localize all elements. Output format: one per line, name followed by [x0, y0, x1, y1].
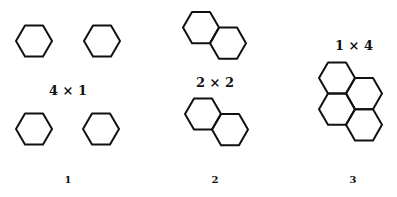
hexagon [212, 114, 248, 145]
group-1-dimension-label: 4 × 1 [49, 83, 87, 98]
hexagon [346, 109, 382, 140]
group-2-index-label: 2 [212, 174, 219, 185]
hexagon [16, 113, 52, 144]
hexagon [16, 25, 52, 56]
group-3-index-label: 3 [350, 174, 357, 185]
group-3-hexagons [319, 62, 382, 140]
hexagon [84, 25, 120, 56]
hexagon-diagram [0, 0, 397, 197]
hexagon [210, 28, 246, 59]
group-1-index-label: 1 [65, 174, 72, 185]
group-2-dimension-label: 2 × 2 [196, 75, 234, 90]
group-3-dimension-label: 1 × 4 [335, 38, 373, 53]
hexagon [83, 113, 119, 144]
